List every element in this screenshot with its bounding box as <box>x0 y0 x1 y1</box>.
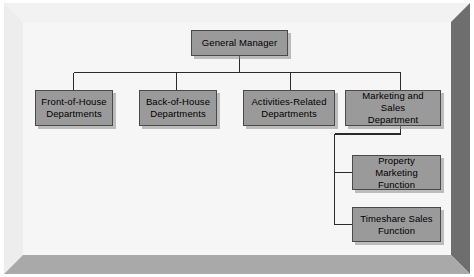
node-activities-related[interactable]: Activities-Related Departments <box>243 90 335 126</box>
org-chart-canvas: General Manager Front-of-House Departmen… <box>0 0 474 277</box>
node-marketing-and-sales[interactable]: Marketing and Sales Department <box>345 90 441 126</box>
node-activities-related-label: Activities-Related Departments <box>248 96 329 120</box>
node-front-of-house-label: Front-of-House Departments <box>38 96 109 120</box>
node-back-of-house[interactable]: Back-of-House Departments <box>139 90 217 126</box>
node-timeshare-sales-label: Timeshare Sales Function <box>357 213 435 237</box>
node-back-of-house-label: Back-of-House Departments <box>143 96 213 120</box>
node-marketing-and-sales-label: Marketing and Sales Department <box>346 90 440 126</box>
node-property-marketing[interactable]: Property Marketing Function <box>352 155 441 190</box>
node-front-of-house[interactable]: Front-of-House Departments <box>35 90 113 126</box>
node-timeshare-sales[interactable]: Timeshare Sales Function <box>352 207 441 242</box>
node-general-manager[interactable]: General Manager <box>191 30 288 56</box>
node-property-marketing-label: Property Marketing Function <box>353 155 440 191</box>
node-general-manager-label: General Manager <box>199 37 280 49</box>
